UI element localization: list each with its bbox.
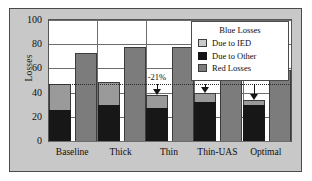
red-swatch-icon (198, 64, 207, 72)
chart-panel: Losses 020406080100 -21%-17%-27% Baselin… (9, 8, 302, 172)
y-tick-label: 0 (12, 135, 42, 146)
bar-blue-due-to-other (194, 102, 216, 141)
legend-entries: Due to IEDDue to OtherRed Losses (196, 38, 284, 73)
bar-blue-due-to-other (49, 110, 71, 141)
x-tick-label: Thin-UAS (197, 147, 237, 157)
bar-blue-due-to-other (243, 105, 265, 141)
x-tick-label: Optimal (250, 147, 281, 157)
x-tick-label: Baseline (56, 147, 89, 157)
x-tick-label: Thin (160, 147, 178, 157)
bar-blue-due-to-ied (49, 84, 71, 109)
y-tick-label: 40 (12, 86, 42, 97)
bar-blue-due-to-ied (194, 93, 216, 103)
percent-change-annotation: -21% (148, 72, 166, 82)
annotation-arrow-shaft (254, 84, 255, 94)
y-tick-label: 80 (12, 38, 42, 49)
bar-red-losses (124, 47, 146, 141)
bar-red-losses (75, 53, 97, 141)
y-tick-label: 60 (12, 62, 42, 73)
bar-blue-due-to-other (146, 108, 168, 141)
legend-entry-label: Red Losses (212, 63, 251, 73)
chart-figure: Losses 020406080100 -21%-17%-27% Baselin… (0, 0, 312, 181)
chart-legend: Blue Losses Due to IEDDue to OtherRed Lo… (191, 21, 289, 81)
y-tick-label: 20 (12, 110, 42, 121)
bar-blue-due-to-ied (146, 95, 168, 108)
legend-entry: Due to IED (196, 38, 284, 48)
y-tick-label: 100 (12, 14, 42, 25)
bar-blue-due-to-ied (243, 100, 265, 105)
x-tick-label: Thick (110, 147, 132, 157)
legend-entry-label: Due to IED (212, 38, 251, 48)
other-swatch-icon (198, 52, 207, 60)
bar-blue-due-to-ied (98, 82, 120, 105)
legend-title: Blue Losses (196, 25, 284, 35)
legend-entry: Due to Other (196, 51, 284, 61)
bar-blue-due-to-other (98, 105, 120, 141)
annotation-arrow-head (153, 89, 161, 95)
gridline (49, 141, 291, 142)
legend-entry-label: Due to Other (212, 51, 256, 61)
legend-entry: Red Losses (196, 63, 284, 73)
annotation-arrow-head (250, 94, 258, 100)
annotation-arrow-head (201, 87, 209, 93)
ied-swatch-icon (198, 39, 207, 47)
